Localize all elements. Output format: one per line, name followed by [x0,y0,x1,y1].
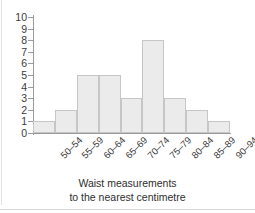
x-axis-tick-labels: 50–5455–5960–6465–6970–7475–7980–8485–89… [33,135,230,175]
bar [77,75,99,133]
page-bottom-rule [0,209,255,210]
x-axis-line [33,133,231,134]
histogram-figure: 012345678910 50–5455–5960–6465–6970–7475… [0,0,255,213]
bar [164,98,186,133]
x-axis-tick-label: 80–84 [190,135,215,160]
x-axis-tick-label: 50–54 [58,135,83,160]
bar [55,110,77,133]
y-axis-tick-label: 10 [1,12,27,23]
y-axis-tick-label: 3 [1,93,27,104]
bar [142,40,164,133]
bar [33,121,55,133]
y-axis-tick-label: 1 [1,116,27,127]
y-axis-tick-label: 5 [1,70,27,81]
bar [186,110,208,133]
x-axis-tick-label: 65–69 [124,135,149,160]
bar [99,75,121,133]
x-axis-tick-label: 60–64 [102,135,127,160]
bar [121,98,143,133]
y-axis-tick-label: 9 [1,24,27,35]
y-axis-tick-label: 0 [1,128,27,139]
y-axis-tick-label: 6 [1,58,27,69]
y-axis-tick-label: 8 [1,35,27,46]
bar-series [33,17,230,133]
x-axis-tick-label: 75–79 [168,135,193,160]
x-axis-tick-label: 70–74 [146,135,171,160]
x-axis-title-line-2: to the nearest centimetre [0,190,255,204]
bar [208,121,230,133]
y-axis-tick-label: 4 [1,82,27,93]
x-axis-tick-label: 55–59 [80,135,105,160]
x-axis-tick-label: 85–89 [211,135,236,160]
x-axis-tick-label: 90–94 [233,135,255,160]
y-axis-tick-label: 7 [1,47,27,58]
x-axis-title-line-1: Waist measurements [0,176,255,190]
y-axis-tick-label: 2 [1,105,27,116]
x-axis-title: Waist measurements to the nearest centim… [0,176,255,204]
